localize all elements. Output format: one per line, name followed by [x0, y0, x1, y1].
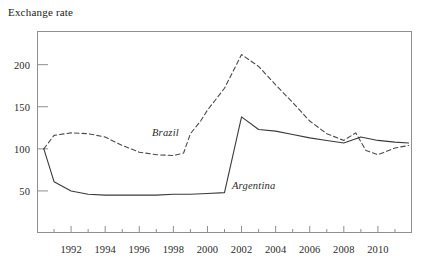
x-axis-tick-label: 2004 [258, 244, 294, 255]
x-axis-tick-label: 2010 [360, 244, 396, 255]
x-axis-tick-label: 2008 [326, 244, 362, 255]
y-axis-tick-label: 100 [2, 143, 30, 154]
series-line-argentina [44, 117, 409, 195]
x-axis-ticks [54, 226, 395, 233]
series-label-brazil: Brazil [152, 127, 179, 138]
x-axis-tick-label: 2002 [224, 244, 260, 255]
y-axis-tick-label: 150 [2, 101, 30, 112]
y-axis-tick-label: 200 [2, 59, 30, 70]
y-axis-ticks [37, 65, 48, 191]
y-axis-tick-label: 50 [2, 185, 30, 196]
x-axis-tick-label: 1994 [87, 244, 123, 255]
x-axis-tick-label: 1996 [121, 244, 157, 255]
series-label-argentina: Argentina [232, 180, 275, 191]
data-series-group [44, 55, 409, 196]
x-axis-tick-label: 1992 [53, 244, 89, 255]
x-axis-tick-label: 1998 [155, 244, 191, 255]
series-line-brazil [44, 55, 409, 156]
chart-canvas [0, 0, 431, 271]
x-axis-tick-label: 2000 [189, 244, 225, 255]
chart-figure: Exchange rate 50100150200 19921994199619… [0, 0, 431, 271]
x-axis-tick-label: 2006 [292, 244, 328, 255]
